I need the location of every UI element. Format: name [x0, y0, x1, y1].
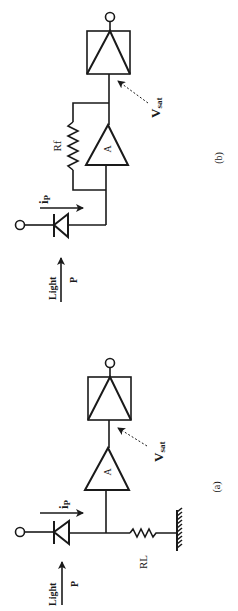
circuit-a: Vsat A RL: [16, 359, 224, 607]
circuit-b: Vsat A Rf iP Light P (b): [16, 13, 226, 303]
current-label: iP: [36, 194, 52, 204]
input-terminal-icon: [16, 528, 25, 537]
amplifier-label: A: [102, 145, 113, 153]
photodiode-icon: [54, 521, 69, 544]
load-resistor-label: RL: [137, 555, 149, 569]
photodiode-icon: [54, 214, 68, 237]
vsat-arrow-icon: [118, 428, 147, 446]
power-label: P: [68, 277, 79, 283]
current-label: iP: [56, 499, 72, 509]
amplifier-label: A: [102, 468, 113, 476]
output-terminal-icon: [106, 359, 115, 368]
amplifier-icon: [86, 125, 128, 165]
vsat-label: Vsat: [151, 442, 167, 462]
circuit-diagram: Vsat A Rf iP Light P (b): [0, 0, 238, 611]
load-resistor-icon: [130, 529, 177, 537]
feedback-wire-top: [73, 103, 109, 122]
limiter-block-icon: [88, 377, 131, 420]
feedback-resistor-label: Rf: [51, 140, 63, 151]
light-label: Light: [47, 582, 58, 606]
caption-a: (a): [211, 481, 223, 492]
input-terminal-icon: [16, 221, 25, 230]
ground-icon: [177, 508, 182, 551]
power-label: P: [69, 581, 80, 587]
feedback-resistor-icon: [68, 122, 78, 170]
feedback-wire-bottom: [73, 170, 106, 190]
output-terminal-icon: [106, 13, 115, 22]
vsat-arrow-icon: [118, 81, 148, 103]
limiter-block-icon: [87, 31, 130, 74]
light-label: Light: [47, 276, 58, 300]
vsat-label: Vsat: [148, 98, 164, 118]
caption-b: (b): [213, 152, 225, 164]
